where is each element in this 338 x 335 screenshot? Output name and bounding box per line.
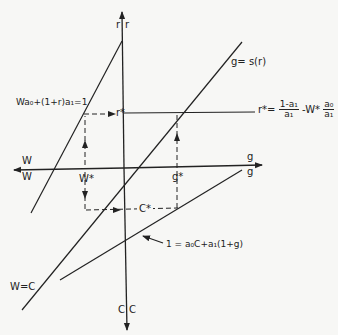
wage-profit-label: Wa₀+(1+r)a₁=1 — [16, 98, 87, 107]
horizontal-axis-g — [124, 165, 262, 168]
wage-consumption-label: W=C — [10, 282, 35, 292]
dash-c-star-horizontal — [86, 208, 178, 210]
four-quadrant-diagram: r r C C W W g g Wa₀+(1+r)a₁=1 g= s(r) W=… — [0, 0, 338, 335]
fraction-2-denominator: a₁ — [323, 110, 334, 119]
r-star-line — [124, 112, 255, 113]
growth-saving-line — [22, 42, 242, 310]
diagram-canvas — [0, 0, 338, 335]
c-star-label: C* — [137, 204, 153, 214]
r-star-label: r* — [116, 108, 125, 118]
wage-profit-line — [31, 41, 122, 213]
axis-label-c-left: C — [118, 305, 125, 315]
formula-fraction-2: a₀ a₁ — [323, 100, 334, 120]
fraction-1-denominator: a₁ — [279, 110, 299, 119]
axis-label-g-bottom: g — [247, 167, 253, 177]
axis-label-w-top: W — [22, 156, 32, 166]
horizontal-axis-w — [14, 168, 124, 170]
axis-label-w-bottom: W — [22, 172, 32, 182]
formula-middle: -W* — [302, 104, 320, 115]
axis-label-g-top: g — [247, 152, 253, 162]
consumption-growth-label: 1 = a₀C+a₁(1+g) — [166, 240, 243, 249]
pointer-arrow — [143, 236, 163, 243]
g-star-label: g* — [172, 172, 183, 182]
r-star-formula: r*= 1-a₁ a₁ -W* a₀ a₁ — [258, 100, 334, 120]
consumption-growth-line — [60, 170, 242, 280]
axis-label-r-right: r — [125, 20, 129, 30]
formula-fraction-1: 1-a₁ a₁ — [279, 100, 299, 120]
axis-label-r-left: r — [116, 20, 120, 30]
formula-lhs: r*= — [258, 104, 276, 115]
w-star-label: W* — [79, 174, 94, 184]
growth-saving-label: g= s(r) — [231, 57, 266, 67]
vertical-axis-r — [122, 12, 124, 168]
axis-label-c-right: C — [129, 305, 136, 315]
